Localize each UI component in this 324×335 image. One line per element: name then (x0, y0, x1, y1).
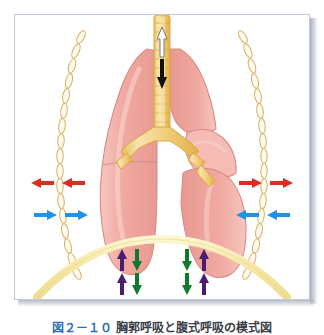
rib-segment (63, 238, 73, 254)
figure-panel (14, 14, 310, 300)
rib-arrow-red-right-inner (239, 178, 262, 188)
ribs-left (56, 29, 87, 280)
rib-segment (60, 103, 68, 119)
rib-segment (258, 118, 266, 134)
rib-segment (70, 43, 82, 59)
panel-shadow-bottom (18, 300, 314, 307)
rib-segment (259, 133, 266, 148)
rib-segment (256, 103, 264, 119)
diaphragm-arrow-green-down-right-upper (182, 249, 192, 271)
rib-segment (247, 58, 258, 74)
rib-segment (251, 238, 261, 254)
diaphragm-arrow-purple-up-left-lower (117, 273, 127, 295)
rib-segment (67, 58, 78, 74)
rib-segment (260, 178, 267, 193)
rib-segment (254, 88, 263, 104)
rib-segment (57, 163, 64, 178)
rib-segment (254, 223, 263, 239)
rib-segment (261, 163, 268, 178)
right-lung-upper-lobe (170, 49, 216, 134)
rib-segment (57, 133, 64, 148)
panel-shadow-right (310, 18, 318, 304)
rib-segment (57, 148, 64, 163)
rib-segment (62, 88, 71, 104)
diaphragm-arrow-purple-up-right-lower (199, 273, 209, 295)
rib-arrow-red-right-outer (270, 178, 293, 188)
rib-arrow-blue-left-inner (34, 210, 57, 220)
figure-number: 図２－１０ (52, 321, 112, 335)
rib-arrow-red-left-inner (62, 178, 85, 188)
diaphragm-arrow-green-down-left-lower (132, 273, 142, 295)
rib-arrow-blue-right-inner (267, 210, 290, 220)
diaphragm (37, 239, 287, 297)
rib-segment (58, 118, 66, 134)
rib-arrow-blue-left-outer (65, 210, 88, 220)
rib-segment (75, 29, 88, 44)
rib-segment (242, 43, 254, 59)
rib-segment (259, 193, 267, 209)
rib-segment (56, 178, 63, 193)
figure-caption-text: 胸郭呼吸と腹式呼吸の模式図 (116, 321, 272, 335)
rib-segment (261, 148, 268, 163)
rib-segment (64, 73, 74, 89)
rib-arrow-red-left-outer (31, 178, 54, 188)
figure-canvas (15, 15, 309, 299)
screenshot-root: 図２－１０胸郭呼吸と腹式呼吸の模式図 (0, 0, 324, 335)
rib-segment (60, 223, 69, 239)
diaphragm-arrow-green-down-right-lower (182, 273, 192, 295)
figure-caption: 図２－１０胸郭呼吸と腹式呼吸の模式図 (0, 318, 324, 335)
anatomy-illustration (15, 15, 309, 299)
rib-segment (250, 73, 260, 89)
rib-segment (237, 29, 250, 44)
rib-segment (57, 193, 65, 209)
